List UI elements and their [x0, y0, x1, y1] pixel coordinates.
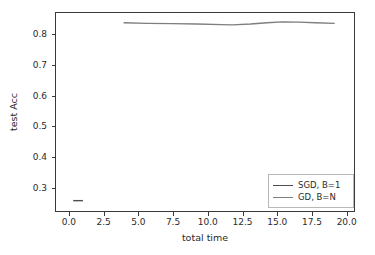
y-tick-mark [52, 34, 56, 35]
legend-entry-label: GD, B=N [298, 191, 336, 203]
y-tick-mark [52, 157, 56, 158]
legend-box: SGD, B=1GD, B=N [268, 174, 354, 208]
y-axis-label: test Acc [8, 93, 19, 131]
chart-figure: 0.02.55.07.510.012.515.017.520.0 0.30.40… [0, 0, 375, 255]
y-tick-mark [52, 96, 56, 97]
x-tick-label: 12.5 [232, 217, 252, 227]
y-tick-label: 0.6 [33, 91, 47, 101]
x-tick-label: 10.0 [198, 217, 218, 227]
x-tick-label: 15.0 [267, 217, 287, 227]
legend-line-icon [273, 197, 293, 198]
y-tick-mark [52, 65, 56, 66]
x-tick-mark [104, 212, 105, 216]
x-tick-mark [173, 212, 174, 216]
y-tick-label: 0.3 [33, 183, 47, 193]
series-line [124, 22, 335, 25]
y-tick-mark [52, 188, 56, 189]
legend-entry: GD, B=N [273, 191, 348, 203]
y-tick-label: 0.5 [33, 121, 47, 131]
x-tick-label: 17.5 [302, 217, 322, 227]
y-tick-mark [52, 126, 56, 127]
x-tick-mark [243, 212, 244, 216]
legend-entry-label: SGD, B=1 [298, 179, 340, 191]
x-axis-label: total time [182, 232, 228, 243]
legend-entry: SGD, B=1 [273, 179, 348, 191]
x-tick-mark [277, 212, 278, 216]
x-tick-label: 20.0 [337, 217, 357, 227]
x-tick-label: 2.5 [96, 217, 110, 227]
x-tick-mark [347, 212, 348, 216]
y-tick-label: 0.8 [33, 29, 47, 39]
x-tick-mark [138, 212, 139, 216]
x-tick-mark [208, 212, 209, 216]
x-tick-mark [69, 212, 70, 216]
x-tick-label: 5.0 [131, 217, 145, 227]
x-tick-label: 0.0 [62, 217, 76, 227]
y-tick-label: 0.4 [33, 152, 47, 162]
x-tick-label: 7.5 [166, 217, 180, 227]
legend-line-icon [273, 185, 293, 186]
x-tick-mark [312, 212, 313, 216]
y-tick-label: 0.7 [33, 60, 47, 70]
